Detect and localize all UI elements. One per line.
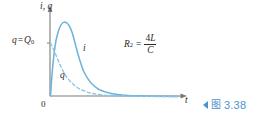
y-axis-label: i, q bbox=[40, 2, 52, 12]
formula-r-squared: R2 = 4L C bbox=[124, 34, 156, 56]
formula-equals: = bbox=[133, 40, 144, 50]
level-label-equals: = bbox=[17, 35, 24, 45]
curve-current-i bbox=[51, 22, 179, 96]
curve-charge-q bbox=[51, 43, 179, 97]
curve-label-current: i bbox=[83, 44, 86, 54]
level-label-value: Q bbox=[24, 35, 31, 45]
formula-denominator: C bbox=[146, 45, 154, 55]
formula-numerator: 4L bbox=[144, 34, 156, 44]
q0-level-label: q=Q0 bbox=[12, 36, 34, 46]
figure-caption: 图 3.38 bbox=[203, 99, 246, 111]
curve-label-charge: q bbox=[60, 71, 65, 81]
figure-container: i, q q=Q0 0 t i q R2 = 4L C 图 3.38 bbox=[0, 0, 269, 123]
level-label-subscript: 0 bbox=[31, 38, 34, 45]
formula-numerator-symbol: L bbox=[150, 33, 155, 43]
figure-number: 3.38 bbox=[224, 99, 246, 111]
formula-fraction: 4L C bbox=[144, 34, 156, 56]
left-triangle-icon bbox=[203, 101, 208, 109]
x-axis-label: t bbox=[185, 96, 188, 106]
y-axis-label-q: q bbox=[47, 1, 52, 11]
origin-label: 0 bbox=[41, 100, 46, 109]
figure-glyph: 图 bbox=[211, 100, 221, 110]
